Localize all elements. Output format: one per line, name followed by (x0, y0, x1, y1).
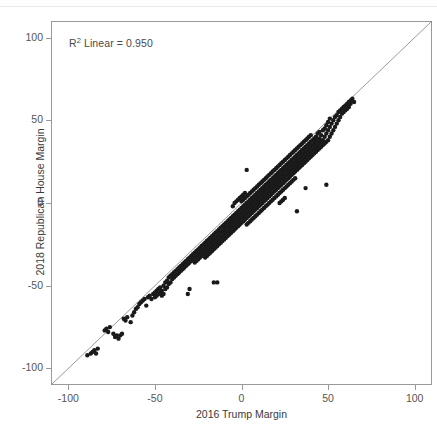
data-point (245, 168, 249, 172)
y-tick-mark (46, 120, 51, 121)
x-tick-label: -50 (132, 392, 178, 404)
y-tick-label: -100 (0, 361, 43, 373)
data-point (120, 332, 124, 336)
y-tick-mark (46, 38, 51, 39)
data-point (187, 287, 191, 291)
data-points-group (85, 97, 356, 358)
data-point (283, 196, 287, 200)
x-tick-mark (155, 385, 156, 390)
y-tick-mark (46, 203, 51, 204)
y-axis-title: 2018 Republican House Margin (34, 82, 46, 322)
x-tick-mark (415, 385, 416, 390)
data-point (293, 176, 297, 180)
x-tick-label: -100 (45, 392, 91, 404)
data-point (108, 325, 112, 329)
r-squared-prefix: R (69, 37, 77, 49)
data-point (215, 280, 219, 284)
data-point (303, 186, 307, 190)
data-point (352, 100, 356, 104)
data-point (186, 292, 190, 296)
data-point (128, 320, 132, 324)
r-squared-annotation: R2 Linear = 0.950 (69, 37, 153, 49)
x-tick-mark (242, 385, 243, 390)
data-point (125, 315, 129, 319)
data-point (324, 183, 328, 187)
data-point (309, 133, 313, 137)
x-tick-mark (328, 385, 329, 390)
data-point (144, 303, 148, 307)
plot-canvas (51, 21, 432, 385)
scatter-plot-figure: R2 Linear = 0.950 -100-50050100 -100-500… (0, 0, 437, 426)
x-axis-title: 2016 Trump Margin (51, 408, 432, 420)
y-tick-label: 100 (0, 31, 43, 43)
data-point (106, 330, 110, 334)
top-divider (0, 6, 437, 7)
x-tick-label: 0 (219, 392, 265, 404)
data-point (295, 209, 299, 213)
y-tick-mark (46, 368, 51, 369)
x-tick-label: 50 (305, 392, 351, 404)
data-point (96, 346, 100, 350)
data-point (94, 351, 98, 355)
r-squared-text: Linear = 0.950 (81, 37, 153, 49)
y-tick-mark (46, 286, 51, 287)
x-tick-mark (68, 385, 69, 390)
data-point (161, 292, 165, 296)
x-tick-label: 100 (392, 392, 437, 404)
